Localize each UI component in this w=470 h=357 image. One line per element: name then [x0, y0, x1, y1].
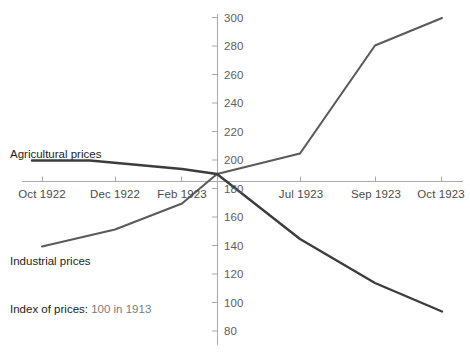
series-label-industrial: Industrial prices	[10, 255, 91, 267]
y-tick-label-240: 240	[224, 97, 244, 109]
y-tick-label-80: 80	[224, 325, 237, 337]
y-tick-label-160: 160	[224, 211, 244, 223]
x-tick-label-sep-1923: Sep 1923	[351, 188, 401, 200]
x-tick-label-jul-1923: Jul 1923	[279, 188, 323, 200]
y-tick-label-220: 220	[224, 126, 244, 138]
index-note-value: 100 in 1913	[91, 303, 151, 315]
index-note: Index of prices: 100 in 1913	[10, 303, 151, 315]
y-tick-label-100: 100	[224, 297, 244, 309]
series-label-agricultural: Agricultural prices	[10, 148, 101, 160]
y-tick-label-120: 120	[224, 268, 244, 280]
x-tick-label-feb-1923: Feb 1923	[157, 188, 206, 200]
index-note-prefix: Index of prices:	[10, 303, 88, 315]
y-tick-label-300: 300	[224, 12, 244, 24]
x-tick-label-oct-1923: Oct 1923	[417, 188, 464, 200]
y-tick-label-140: 140	[224, 240, 244, 252]
y-tick-label-200: 200	[224, 154, 244, 166]
price-index-line-chart: 300 280 260 240 220 200 180 160 140 120 …	[0, 0, 470, 357]
y-tick-label-260: 260	[224, 69, 244, 81]
x-tick-label-oct-1922: Oct 1922	[18, 188, 65, 200]
y-tick-label-180: 180	[224, 183, 244, 195]
x-tick-marks	[43, 177, 442, 182]
y-tick-label-280: 280	[224, 40, 244, 52]
x-tick-label-dec-1922: Dec 1922	[90, 188, 140, 200]
